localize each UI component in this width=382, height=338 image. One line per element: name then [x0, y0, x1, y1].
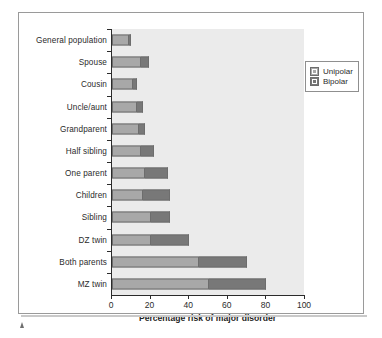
- bar-segment-bipolar: [151, 212, 170, 223]
- x-axis-tick-label: 40: [183, 300, 192, 310]
- stacked-bar: [112, 101, 143, 112]
- bar-segment-bipolar: [141, 145, 155, 156]
- stacked-bar: [112, 79, 137, 90]
- category-label: Sibling: [82, 213, 107, 222]
- bar-row: Children: [19, 184, 365, 206]
- x-axis-tick-label: 80: [261, 300, 270, 310]
- y-axis-tick: [107, 118, 111, 119]
- category-label: Cousin: [81, 80, 107, 89]
- y-axis-tick: [107, 140, 111, 141]
- x-axis-tick-label: 100: [297, 300, 311, 310]
- legend-item: Unipolar: [310, 67, 353, 76]
- bar-segment-bipolar: [139, 123, 145, 134]
- bar-row: Uncle/aunt: [19, 96, 365, 118]
- category-label: Children: [76, 191, 107, 200]
- category-label: MZ twin: [78, 279, 107, 288]
- legend-label: Bipolar: [323, 77, 348, 86]
- category-label: One parent: [65, 169, 107, 178]
- x-axis-title: Percentage risk of major disorder: [111, 313, 304, 323]
- category-label: General population: [36, 36, 107, 45]
- bar-row: One parent: [19, 162, 365, 184]
- bar-segment-unipolar: [112, 57, 141, 68]
- stacked-bar: [112, 278, 266, 289]
- bar-segment-unipolar: [112, 190, 143, 201]
- x-axis-tick-label: 60: [222, 300, 231, 310]
- y-axis-tick: [107, 73, 111, 74]
- x-axis-line: [111, 295, 304, 296]
- bar-segment-unipolar: [112, 35, 129, 46]
- bar-segment-bipolar: [199, 256, 247, 267]
- x-axis-tick: [150, 295, 151, 299]
- bar-segment-bipolar: [143, 190, 170, 201]
- bar-segment-bipolar: [209, 278, 267, 289]
- y-axis-tick: [107, 229, 111, 230]
- bar-row: Half sibling: [19, 140, 365, 162]
- y-axis-tick: [107, 251, 111, 252]
- bar-segment-unipolar: [112, 123, 139, 134]
- category-label: Grandparent: [60, 124, 107, 133]
- category-label: DZ twin: [79, 235, 107, 244]
- bar-segment-unipolar: [112, 168, 145, 179]
- bar-row: General population: [19, 29, 365, 51]
- x-axis-tick: [265, 295, 266, 299]
- bar-segment-bipolar: [129, 35, 131, 46]
- bar-row: MZ twin: [19, 273, 365, 295]
- x-axis-tick-label: 0: [109, 300, 114, 310]
- y-axis-tick: [107, 206, 111, 207]
- category-label: Both parents: [59, 257, 107, 266]
- stacked-bar: [112, 190, 170, 201]
- x-axis-tick: [227, 295, 228, 299]
- bar-segment-unipolar: [112, 101, 137, 112]
- y-axis-tick: [107, 184, 111, 185]
- bar-segment-unipolar: [112, 145, 141, 156]
- bar-segment-unipolar: [112, 234, 151, 245]
- bar-segment-unipolar: [112, 278, 209, 289]
- y-axis-tick: [107, 162, 111, 163]
- bar-segment-bipolar: [145, 168, 168, 179]
- category-label: Spouse: [79, 58, 107, 67]
- bar-row: Grandparent: [19, 118, 365, 140]
- category-label: Uncle/aunt: [67, 102, 107, 111]
- x-axis-tick: [111, 295, 112, 299]
- chart-plot: General populationSpouseCousinUncle/aunt…: [19, 13, 365, 315]
- y-axis-tick: [107, 273, 111, 274]
- bar-segment-unipolar: [112, 79, 133, 90]
- scan-artifact-mark: [20, 322, 24, 328]
- stacked-bar: [112, 234, 189, 245]
- bar-segment-bipolar: [133, 79, 137, 90]
- stacked-bar: [112, 145, 154, 156]
- bar-segment-bipolar: [141, 57, 149, 68]
- x-axis-tick-label: 20: [145, 300, 154, 310]
- stacked-bar: [112, 212, 170, 223]
- bar-row: Both parents: [19, 251, 365, 273]
- bar-row: Sibling: [19, 206, 365, 228]
- chart-legend: UnipolarBipolar: [305, 61, 359, 92]
- bar-segment-bipolar: [137, 101, 143, 112]
- bar-segment-bipolar: [151, 234, 190, 245]
- category-label: Half sibling: [66, 146, 107, 155]
- stacked-bar: [112, 256, 247, 267]
- x-axis-tick: [304, 295, 305, 299]
- legend-swatch-icon: [310, 67, 319, 76]
- stacked-bar: [112, 123, 145, 134]
- legend-item: Bipolar: [310, 77, 353, 86]
- y-axis-tick: [107, 51, 111, 52]
- bar-segment-unipolar: [112, 256, 199, 267]
- bar-segment-unipolar: [112, 212, 151, 223]
- figure-frame: General populationSpouseCousinUncle/aunt…: [18, 12, 364, 314]
- x-axis-tick: [188, 295, 189, 299]
- bar-row: DZ twin: [19, 229, 365, 251]
- stacked-bar: [112, 168, 168, 179]
- legend-label: Unipolar: [323, 67, 353, 76]
- stacked-bar: [112, 35, 131, 46]
- legend-swatch-icon: [310, 77, 319, 86]
- y-axis-tick: [107, 29, 111, 30]
- y-axis-tick: [107, 96, 111, 97]
- stacked-bar: [112, 57, 149, 68]
